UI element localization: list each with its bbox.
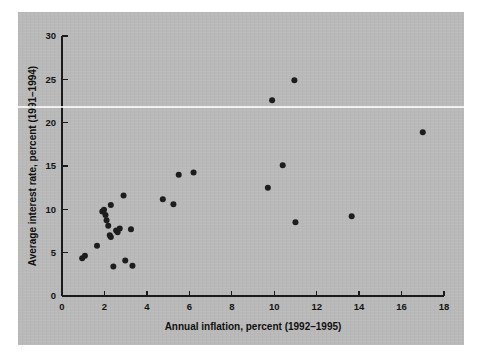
data-point: [117, 225, 123, 231]
x-axis-title: Annual inflation, percent (1992–1995): [165, 321, 342, 332]
data-point: [265, 185, 271, 191]
axes: [62, 36, 444, 296]
data-point: [101, 207, 107, 213]
plot-canvas: 024681012141618 051015202530 Annual infl…: [0, 0, 481, 357]
data-point: [110, 264, 116, 270]
y-tick-label: 0: [51, 290, 56, 301]
x-tick-label: 18: [439, 301, 450, 312]
data-point: [94, 243, 100, 249]
y-tick-label: 10: [45, 204, 56, 215]
y-tick-label: 5: [51, 247, 57, 258]
scan-artifact-line: [18, 106, 464, 108]
y-tick-label: 30: [45, 30, 56, 41]
scatter-plot-figure: 024681012141618 051015202530 Annual infl…: [0, 0, 481, 357]
y-tick-label: 20: [45, 117, 56, 128]
data-point: [121, 192, 127, 198]
data-point: [103, 212, 109, 218]
y-tick-label: 15: [45, 160, 56, 171]
data-point: [108, 202, 114, 208]
data-point: [105, 223, 111, 229]
x-tick-label: 14: [354, 301, 365, 312]
data-point: [160, 196, 166, 202]
data-point: [269, 97, 275, 103]
data-point: [292, 219, 298, 225]
data-point: [104, 217, 110, 223]
x-tick-label: 0: [59, 301, 64, 312]
x-tick-label: 10: [269, 301, 280, 312]
x-tick-label: 2: [102, 301, 107, 312]
data-point: [420, 129, 426, 135]
data-point: [108, 234, 114, 240]
data-point: [128, 226, 134, 232]
data-point: [291, 77, 297, 83]
y-tick-label: 25: [45, 74, 56, 85]
x-tick-label: 8: [229, 301, 234, 312]
data-point: [170, 201, 176, 207]
data-point: [280, 162, 286, 168]
x-axis-ticks: 024681012141618: [59, 291, 449, 312]
x-tick-label: 4: [144, 301, 150, 312]
x-tick-label: 6: [187, 301, 192, 312]
y-axis-ticks: 051015202530: [45, 30, 68, 301]
x-tick-label: 16: [396, 301, 407, 312]
data-point: [82, 253, 88, 259]
data-point: [176, 172, 182, 178]
data-point: [122, 257, 128, 263]
data-point: [191, 170, 197, 176]
y-axis-title: Average interest rate, percent (1991–199…: [27, 66, 38, 266]
data-point: [129, 263, 135, 269]
data-point: [349, 213, 355, 219]
x-tick-label: 12: [311, 301, 322, 312]
